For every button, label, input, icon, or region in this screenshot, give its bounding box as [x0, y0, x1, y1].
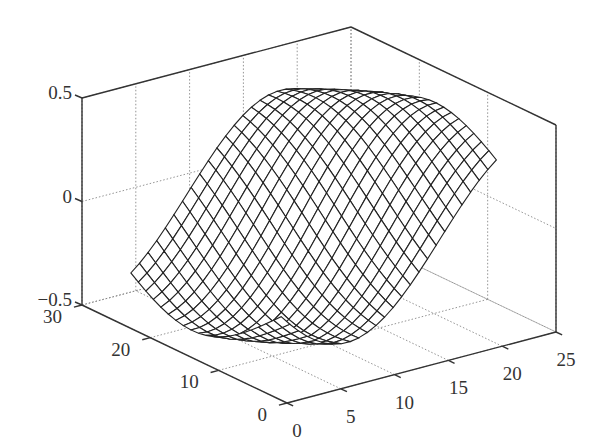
x-tick-label: 0 — [292, 420, 302, 441]
x-tick-label: 15 — [449, 377, 468, 398]
x-tick — [287, 403, 293, 406]
z-tick-label: 0.5 — [48, 82, 72, 103]
y-tick-label: 10 — [180, 371, 199, 392]
y-tick-label: 20 — [111, 339, 130, 360]
x-tick-label: 20 — [503, 363, 522, 384]
x-tick-label: 5 — [346, 406, 356, 427]
x-tick — [395, 375, 401, 378]
y-tick — [279, 403, 287, 405]
x-tick — [448, 360, 454, 363]
z-tick — [75, 95, 82, 98]
z-tick-label: −0.5 — [38, 289, 72, 310]
y-tick — [142, 338, 150, 340]
x-tick-label: 25 — [557, 349, 576, 370]
x-tick-label: 10 — [395, 392, 414, 413]
y-tick — [211, 370, 219, 372]
mesh-plot: 05101520250102030−0.500.5 — [0, 0, 612, 443]
x-tick — [556, 332, 562, 335]
z-tick-label: 0 — [63, 186, 73, 207]
box-edge — [82, 27, 351, 98]
z-tick — [75, 199, 82, 202]
mesh-surface — [131, 89, 497, 344]
y-tick — [74, 305, 82, 307]
z-tick — [75, 302, 82, 305]
y-tick-label: 0 — [258, 404, 268, 425]
x-tick — [502, 346, 508, 349]
x-tick — [341, 389, 347, 392]
